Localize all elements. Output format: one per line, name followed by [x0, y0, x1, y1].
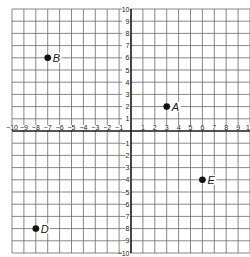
point-d-marker [33, 225, 40, 232]
x-tick-label: −8 [32, 124, 40, 131]
y-tick-label: 2 [126, 103, 130, 110]
x-tick-label: −7 [44, 124, 52, 131]
x-tick-label: −6 [56, 124, 64, 131]
x-tick-label: 6 [200, 124, 204, 131]
y-tick-label: −8 [122, 225, 130, 232]
y-tick-label: −5 [122, 189, 130, 196]
y-tick-label: −4 [122, 176, 130, 183]
y-tick-label: 9 [126, 18, 130, 25]
y-tick-label: 3 [126, 91, 130, 98]
coordinate-plane: −10−9−8−7−6−5−4−3−2−11234567891010987654… [0, 0, 250, 257]
x-tick-label: 9 [236, 124, 240, 131]
y-tick-label: 7 [126, 42, 130, 49]
y-tick-label: 5 [126, 67, 130, 74]
x-tick-label: 4 [177, 124, 181, 131]
x-tick-label: 10 [246, 124, 250, 131]
x-tick-label: −5 [68, 124, 76, 131]
y-tick-label: 1 [126, 115, 130, 122]
point-d-label: D [41, 223, 49, 235]
x-tick-label: −3 [91, 124, 99, 131]
x-tick-label: 7 [212, 124, 216, 131]
x-tick-label: −9 [20, 124, 28, 131]
y-tick-label: 8 [126, 30, 130, 37]
point-b-marker [44, 55, 51, 62]
x-tick-label: −2 [103, 124, 111, 131]
y-tick-label: −9 [122, 237, 130, 244]
x-tick-label: 3 [165, 124, 169, 131]
point-b-label: B [53, 52, 60, 64]
y-tick-label: −10 [118, 250, 130, 257]
x-tick-label: 8 [224, 124, 228, 131]
y-tick-label: −7 [122, 213, 130, 220]
y-tick-label: 6 [126, 54, 130, 61]
x-tick-label: 2 [153, 124, 157, 131]
point-a-marker [163, 103, 170, 110]
x-tick-label: 5 [189, 124, 193, 131]
x-tick-label: −10 [6, 124, 18, 131]
y-tick-label: −2 [122, 152, 130, 159]
x-tick-label: −1 [115, 124, 123, 131]
y-tick-label: 10 [122, 6, 130, 13]
point-e-marker [199, 177, 206, 184]
point-a-label: A [171, 101, 179, 113]
x-tick-label: 1 [141, 124, 145, 131]
point-e-label: E [207, 174, 215, 186]
x-tick-label: −4 [79, 124, 87, 131]
y-tick-label: 4 [126, 79, 130, 86]
y-tick-label: −3 [122, 164, 130, 171]
y-tick-label: −6 [122, 201, 130, 208]
y-tick-label: −1 [122, 140, 130, 147]
